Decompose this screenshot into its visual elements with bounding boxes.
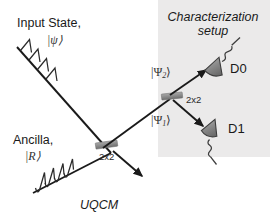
detector-d0-label: D0: [230, 62, 247, 77]
characterization-title-line1: Characterization: [160, 10, 266, 24]
ancilla-label: Ancilla,: [13, 133, 53, 147]
discarded-beam: [113, 151, 142, 176]
input-state-ket: |ψ⟩: [47, 34, 63, 47]
beamsplitter-characterization-label: 2x2: [186, 95, 201, 106]
psi1-ket-close: ⟩: [166, 113, 171, 127]
characterization-title-line2: setup: [160, 24, 266, 38]
psi2-ket-label: |Ψ2⟩: [151, 66, 171, 81]
psi1-ket-base: |Ψ: [151, 113, 162, 127]
uqcm-label: UQCM: [80, 198, 118, 212]
psi1-ket-label: |Ψ1⟩: [151, 114, 171, 129]
input-state-label: Input State,: [17, 16, 81, 30]
psi2-ket-base: |Ψ: [151, 65, 162, 79]
detector-d1-label: D1: [228, 122, 245, 137]
beamsplitter-uqcm-label: 2x2: [99, 152, 114, 163]
ancilla-ket: |R⟩: [25, 150, 41, 163]
figure-canvas: Input State, |ψ⟩ Ancilla, |R⟩ UQCM Chara…: [0, 0, 270, 222]
psi2-ket-close: ⟩: [166, 65, 171, 79]
